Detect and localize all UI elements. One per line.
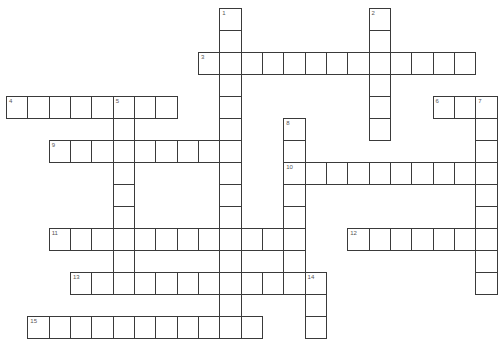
crossword-cell[interactable] — [369, 118, 391, 141]
crossword-cell[interactable] — [475, 228, 497, 251]
crossword-cell[interactable] — [219, 272, 241, 295]
crossword-cell[interactable] — [113, 272, 135, 295]
crossword-cell[interactable] — [219, 206, 241, 229]
crossword-cell[interactable] — [433, 228, 455, 251]
crossword-cell[interactable] — [475, 162, 497, 185]
crossword-cell[interactable]: 4 — [6, 96, 28, 119]
crossword-cell[interactable] — [305, 52, 327, 75]
crossword-cell[interactable] — [113, 140, 135, 163]
crossword-cell[interactable] — [91, 272, 113, 295]
crossword-cell[interactable] — [369, 52, 391, 75]
crossword-cell[interactable] — [27, 96, 49, 119]
crossword-cell[interactable] — [91, 316, 113, 339]
crossword-cell[interactable] — [305, 316, 327, 339]
crossword-cell[interactable] — [177, 228, 199, 251]
crossword-cell[interactable] — [369, 30, 391, 53]
crossword-cell[interactable] — [241, 228, 263, 251]
crossword-cell[interactable] — [411, 162, 433, 185]
crossword-cell[interactable] — [198, 272, 220, 295]
crossword-cell[interactable] — [177, 272, 199, 295]
crossword-cell[interactable] — [241, 316, 263, 339]
crossword-cell[interactable]: 7 — [475, 96, 497, 119]
crossword-cell[interactable] — [49, 96, 71, 119]
crossword-cell[interactable] — [326, 52, 348, 75]
crossword-cell[interactable] — [454, 96, 476, 119]
crossword-cell[interactable] — [369, 74, 391, 97]
crossword-cell[interactable] — [70, 228, 92, 251]
crossword-cell[interactable] — [347, 52, 369, 75]
crossword-cell[interactable]: 13 — [70, 272, 92, 295]
crossword-cell[interactable] — [475, 118, 497, 141]
crossword-cell[interactable]: 14 — [305, 272, 327, 295]
crossword-cell[interactable] — [283, 250, 305, 273]
crossword-cell[interactable] — [283, 206, 305, 229]
crossword-cell[interactable]: 1 — [219, 8, 241, 31]
crossword-cell[interactable] — [305, 294, 327, 317]
crossword-cell[interactable] — [134, 140, 156, 163]
crossword-cell[interactable] — [475, 206, 497, 229]
crossword-cell[interactable] — [155, 140, 177, 163]
crossword-cell[interactable] — [219, 184, 241, 207]
crossword-cell[interactable] — [347, 162, 369, 185]
crossword-cell[interactable] — [70, 316, 92, 339]
crossword-cell[interactable] — [219, 316, 241, 339]
crossword-cell[interactable] — [113, 184, 135, 207]
crossword-cell[interactable] — [326, 162, 348, 185]
crossword-cell[interactable] — [475, 272, 497, 295]
crossword-cell[interactable] — [241, 52, 263, 75]
crossword-cell[interactable] — [134, 96, 156, 119]
crossword-cell[interactable] — [113, 206, 135, 229]
crossword-cell[interactable] — [283, 272, 305, 295]
crossword-cell[interactable] — [262, 272, 284, 295]
crossword-cell[interactable] — [262, 228, 284, 251]
crossword-cell[interactable] — [219, 96, 241, 119]
crossword-cell[interactable] — [475, 140, 497, 163]
crossword-cell[interactable] — [433, 52, 455, 75]
crossword-cell[interactable] — [241, 272, 263, 295]
crossword-cell[interactable] — [177, 140, 199, 163]
crossword-cell[interactable] — [219, 228, 241, 251]
crossword-cell[interactable] — [283, 184, 305, 207]
crossword-cell[interactable] — [91, 96, 113, 119]
crossword-cell[interactable] — [475, 250, 497, 273]
crossword-cell[interactable] — [369, 96, 391, 119]
crossword-cell[interactable] — [283, 140, 305, 163]
crossword-cell[interactable]: 9 — [49, 140, 71, 163]
crossword-cell[interactable] — [305, 162, 327, 185]
crossword-cell[interactable]: 5 — [113, 96, 135, 119]
crossword-cell[interactable] — [433, 162, 455, 185]
crossword-cell[interactable]: 12 — [347, 228, 369, 251]
crossword-cell[interactable] — [454, 228, 476, 251]
crossword-cell[interactable] — [155, 228, 177, 251]
crossword-cell[interactable] — [283, 52, 305, 75]
crossword-cell[interactable] — [219, 74, 241, 97]
crossword-cell[interactable]: 8 — [283, 118, 305, 141]
crossword-cell[interactable] — [219, 140, 241, 163]
crossword-cell[interactable] — [113, 162, 135, 185]
crossword-cell[interactable]: 15 — [27, 316, 49, 339]
crossword-cell[interactable] — [219, 30, 241, 53]
crossword-cell[interactable] — [283, 228, 305, 251]
crossword-cell[interactable]: 11 — [49, 228, 71, 251]
crossword-cell[interactable]: 10 — [283, 162, 305, 185]
crossword-cell[interactable] — [134, 228, 156, 251]
crossword-cell[interactable] — [198, 228, 220, 251]
crossword-cell[interactable] — [219, 250, 241, 273]
crossword-cell[interactable] — [70, 140, 92, 163]
crossword-cell[interactable] — [113, 250, 135, 273]
crossword-cell[interactable] — [155, 316, 177, 339]
crossword-cell[interactable] — [177, 316, 199, 339]
crossword-cell[interactable] — [49, 316, 71, 339]
crossword-cell[interactable] — [219, 294, 241, 317]
crossword-cell[interactable] — [155, 272, 177, 295]
crossword-cell[interactable] — [219, 162, 241, 185]
crossword-cell[interactable] — [155, 96, 177, 119]
crossword-cell[interactable] — [91, 140, 113, 163]
crossword-cell[interactable] — [70, 96, 92, 119]
crossword-cell[interactable] — [198, 140, 220, 163]
crossword-cell[interactable] — [262, 52, 284, 75]
crossword-cell[interactable] — [454, 52, 476, 75]
crossword-cell[interactable] — [219, 118, 241, 141]
crossword-cell[interactable] — [369, 162, 391, 185]
crossword-cell[interactable] — [113, 228, 135, 251]
